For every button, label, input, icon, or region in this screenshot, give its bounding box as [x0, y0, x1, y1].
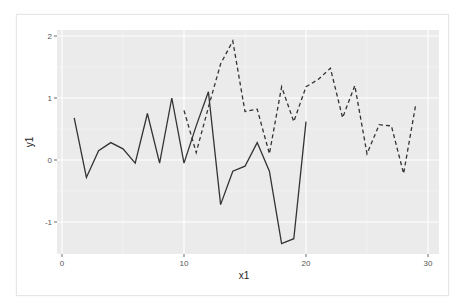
y-axis: -1012 [45, 32, 57, 227]
y-tick-label: 0 [48, 156, 53, 165]
y-tick-label: -1 [45, 218, 53, 227]
x-tick-label: 30 [424, 259, 433, 268]
y-axis-title: y1 [24, 136, 35, 147]
x-tick-label: 20 [302, 259, 311, 268]
x-tick-label: 0 [60, 259, 65, 268]
line-chart: 0102030 -1012 x1 y1 [0, 0, 464, 308]
x-axis: 0102030 [60, 254, 433, 268]
y-tick-label: 1 [48, 94, 53, 103]
x-axis-title: x1 [239, 270, 250, 281]
x-tick-label: 10 [180, 259, 189, 268]
plot-panel [57, 30, 439, 254]
y-tick-label: 2 [48, 32, 53, 41]
